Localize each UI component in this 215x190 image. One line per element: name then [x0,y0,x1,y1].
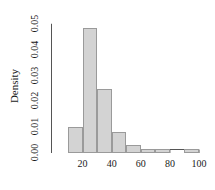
histogram-bar [126,145,141,153]
y-tick-label: 0.03 [25,70,45,82]
y-axis-title: Density [6,18,22,154]
histogram-bar [97,89,112,154]
x-tick-label: 20 [78,158,88,169]
histogram-bar [68,127,83,153]
histogram-bar [141,149,156,153]
y-tick-label: 0.05 [25,18,45,30]
histogram-bar [184,149,199,153]
histogram-bar [112,132,127,153]
y-tick-label: 0.02 [25,95,45,107]
plot-area: 204060801000.000.010.020.030.040.05 [51,10,203,153]
x-tick-label: 100 [192,158,207,169]
y-tick-label: 0.00 [25,147,45,159]
y-axis-title-text: Density [8,69,20,103]
histogram-figure: Density 204060801000.000.010.020.030.040… [0,0,215,190]
x-tick-label: 60 [136,158,146,169]
histogram-bar [155,149,170,153]
y-tick-label: 0.04 [25,44,45,56]
histogram-bar [83,28,98,153]
x-tick-label: 40 [107,158,117,169]
y-tick-label: 0.01 [25,121,45,133]
x-tick-label: 80 [165,158,175,169]
